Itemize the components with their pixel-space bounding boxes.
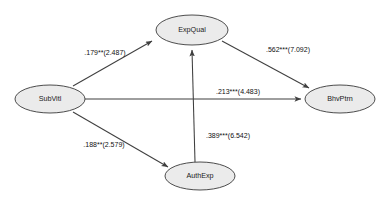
edges-layer [73, 41, 309, 167]
nodes-layer: SubVitl ExpQual AuthExp BhvPtrn [15, 15, 375, 190]
path-diagram: SubVitl ExpQual AuthExp BhvPtrn .179**(2… [0, 0, 385, 203]
node-authexp[interactable]: AuthExp [165, 162, 235, 190]
edge-label-subvitl-expqual: .179**(2.487) [84, 49, 125, 57]
node-expqual-label: ExpQual [178, 25, 206, 34]
node-subvitl[interactable]: SubVitl [15, 85, 85, 113]
edge-subvitl-authexp [73, 112, 168, 167]
node-expqual[interactable]: ExpQual [156, 15, 228, 45]
edge-label-expqual-bhvptrn: .562***(7.092) [266, 46, 310, 54]
edge-label-authexp-expqual: .389***(6.542) [206, 132, 250, 140]
edge-authexp-expqual [192, 50, 195, 162]
node-bhvptrn-label: BhvPtrn [327, 94, 353, 103]
node-authexp-label: AuthExp [186, 171, 213, 180]
node-bhvptrn[interactable]: BhvPtrn [305, 85, 375, 113]
path-diagram-canvas: SubVitl ExpQual AuthExp BhvPtrn .179**(2… [0, 0, 385, 203]
edge-subvitl-expqual [73, 41, 152, 86]
edge-label-subvitl-bhvptrn: .213***(4.483) [216, 88, 260, 96]
edge-label-subvitl-authexp: .188**(2.579) [83, 141, 124, 149]
node-subvitl-label: SubVitl [39, 94, 62, 103]
